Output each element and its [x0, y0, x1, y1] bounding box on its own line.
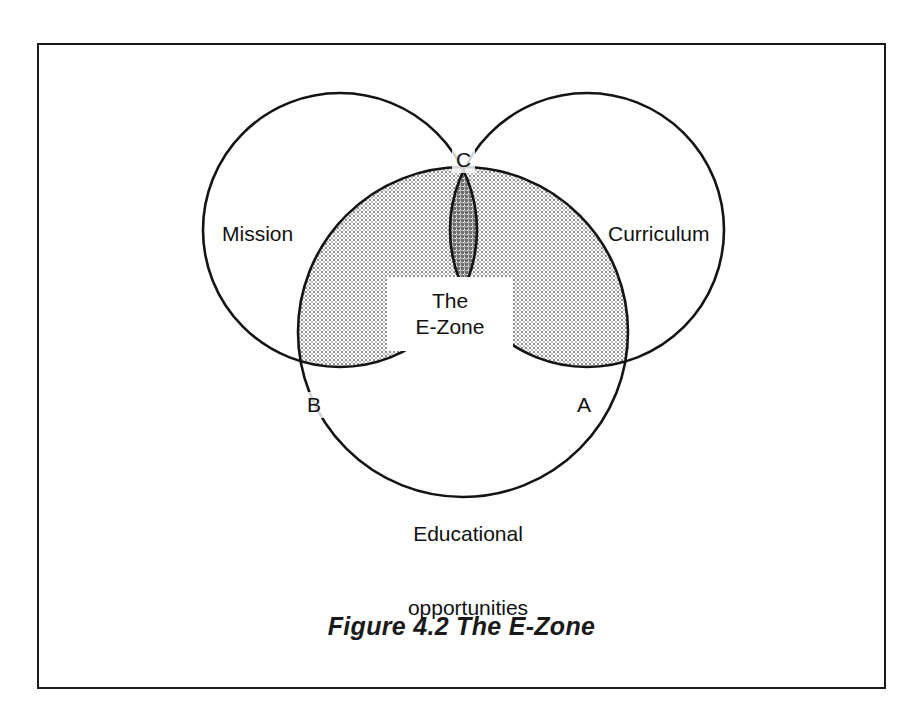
- ezone-line2: E-Zone: [416, 314, 485, 340]
- figure-container: Mission Curriculum Educational opportuni…: [0, 0, 917, 722]
- ezone-center-label: The E-Zone: [387, 277, 513, 351]
- region-label-a: A: [573, 392, 595, 418]
- region-label-b: B: [303, 392, 325, 418]
- label-curriculum: Curriculum: [608, 222, 710, 247]
- label-educational-line1: Educational: [363, 522, 573, 547]
- label-mission: Mission: [222, 222, 293, 247]
- ezone-line1: The: [432, 288, 468, 314]
- figure-caption: Figure 4.2 The E-Zone: [37, 612, 886, 641]
- region-label-c: C: [452, 147, 475, 173]
